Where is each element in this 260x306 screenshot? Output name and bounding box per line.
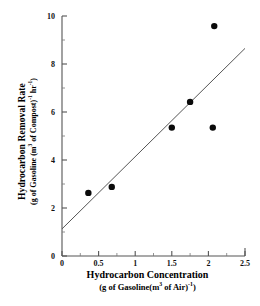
data-point [85, 190, 91, 196]
y-tick-label: 4 [51, 156, 55, 165]
data-point [187, 99, 193, 105]
x-tick-label: 1.5 [167, 259, 177, 268]
x-axis-label: Hydrocarbon Concentration (g of Gasoline… [40, 268, 255, 293]
y-tick-label: 2 [51, 204, 55, 213]
regression-line [62, 48, 245, 228]
chart-figure: Hydrocarbon Removal Rate (g of Gasoline … [0, 0, 260, 306]
data-point [109, 184, 115, 190]
y-tick-label: 10 [47, 12, 55, 21]
y-tick-label: 8 [51, 60, 55, 69]
x-tick-label: 0.5 [94, 259, 104, 268]
x-axis-label-main: Hydrocarbon Concentration [40, 268, 255, 281]
x-units-pre: (g of Gasoline(m [99, 282, 159, 292]
plot-area: 024681000.511.522.5 [0, 0, 260, 306]
x-units-mid: of Air) [162, 282, 188, 292]
x-axis-label-units: (g of Gasoline(m3 of Air)-1) [40, 281, 255, 293]
x-tick-label: 2 [206, 259, 210, 268]
x-tick-label: 0 [60, 259, 64, 268]
x-units-post: ) [193, 282, 196, 292]
data-points-group [85, 23, 217, 196]
y-tick-label: 0 [51, 252, 55, 261]
ticks-group [62, 16, 245, 256]
regression-line-path [62, 48, 245, 228]
data-point [210, 124, 216, 130]
tick-labels-group: 024681000.511.522.5 [47, 12, 250, 268]
data-point [169, 124, 175, 130]
y-tick-label: 6 [51, 108, 55, 117]
x-tick-label: 2.5 [240, 259, 250, 268]
x-tick-label: 1 [133, 259, 137, 268]
data-point [211, 23, 217, 29]
axes-group [62, 16, 245, 256]
